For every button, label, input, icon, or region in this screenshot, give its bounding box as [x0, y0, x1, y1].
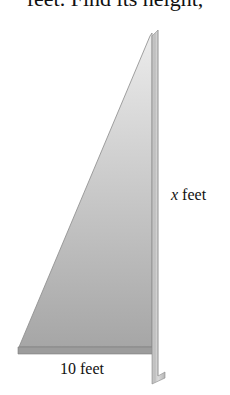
triangle-face	[19, 33, 152, 347]
height-unit: feet	[182, 186, 206, 203]
height-strip	[152, 30, 165, 384]
height-label: x feet	[171, 186, 206, 204]
base-label: 10 feet	[60, 360, 104, 378]
base-strip	[18, 347, 153, 354]
height-variable: x	[171, 186, 178, 203]
